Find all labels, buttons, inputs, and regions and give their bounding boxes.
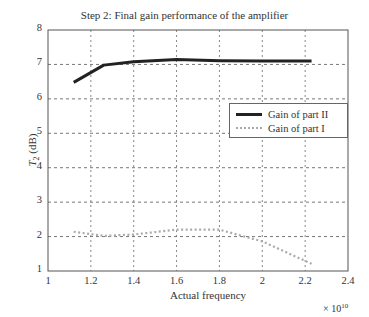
multiplier-base: × 10: [323, 303, 341, 314]
x-axis-multiplier: × 1010: [323, 302, 348, 314]
y-tick-label: 2: [32, 229, 42, 240]
y-tick-label: 7: [32, 56, 42, 67]
legend: Gain of part II Gain of part I: [229, 103, 348, 138]
y-axis-label: T2 (dB): [26, 120, 41, 180]
dotted-line-swatch: [236, 127, 262, 129]
plot-area: [0, 0, 369, 317]
x-tick-label: 2.2: [290, 275, 320, 286]
series-line-part-ii: [74, 60, 312, 83]
y-label-subscript: 2: [32, 156, 41, 160]
x-tick-label: 1: [33, 275, 63, 286]
multiplier-exponent: 10: [341, 302, 348, 310]
legend-label: Gain of part I: [268, 123, 325, 134]
legend-label: Gain of part II: [268, 109, 328, 120]
y-tick-label: 3: [32, 194, 42, 205]
x-tick-label: 1.6: [162, 275, 192, 286]
y-tick-label: 6: [32, 91, 42, 102]
y-label-unit: (dB): [26, 133, 38, 156]
y-tick-label: 1: [32, 263, 42, 274]
x-tick-label: 1.4: [119, 275, 149, 286]
x-tick-label: 1.8: [204, 275, 234, 286]
legend-item-part-ii: Gain of part II: [236, 107, 328, 121]
legend-item-part-i: Gain of part I: [236, 121, 325, 135]
x-axis-label: Actual frequency: [148, 289, 268, 301]
x-tick-label: 2.4: [333, 275, 363, 286]
x-tick-label: 2: [247, 275, 277, 286]
solid-line-swatch: [236, 113, 262, 116]
y-tick-label: 8: [32, 22, 42, 33]
x-tick-label: 1.2: [76, 275, 106, 286]
series-line-part-i: [74, 230, 312, 264]
y-label-symbol: T: [26, 160, 38, 166]
